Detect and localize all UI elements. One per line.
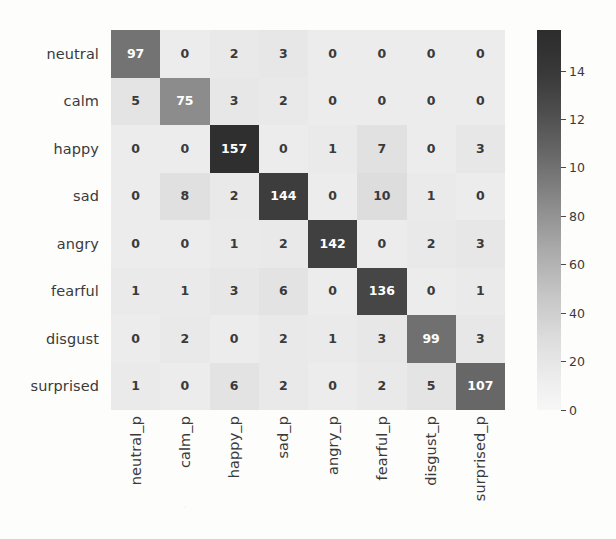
cell-value: 2 xyxy=(230,48,239,61)
y-axis-label-disgust: disgust xyxy=(8,315,106,363)
heatmap-cell: 75 xyxy=(160,78,209,126)
heatmap-cell: 2 xyxy=(210,30,259,78)
cell-value: 0 xyxy=(181,238,190,251)
x-axis-label-slot: surprised_p xyxy=(456,412,505,534)
cell-value: 0 xyxy=(328,190,337,203)
heatmap-cell: 144 xyxy=(259,173,308,221)
x-axis-label-slot: angry_p xyxy=(308,412,357,534)
colorbar-ticks: 020406080101214 xyxy=(561,30,616,410)
heatmap-cell: 2 xyxy=(407,220,456,268)
cell-value: 136 xyxy=(369,285,395,298)
cell-value: 75 xyxy=(176,95,193,108)
colorbar-tick-mark xyxy=(561,71,566,72)
cell-value: 0 xyxy=(476,48,485,61)
cell-value: 2 xyxy=(230,190,239,203)
colorbar-tick-label: 0 xyxy=(569,403,577,418)
x-axis-label-neutral_p: neutral_p xyxy=(128,416,144,485)
cell-value: 1 xyxy=(328,143,337,156)
cell-value: 1 xyxy=(230,238,239,251)
cell-value: 2 xyxy=(279,380,288,393)
cell-value: 157 xyxy=(221,143,247,156)
cell-value: 5 xyxy=(131,95,140,108)
heatmap-cell: 0 xyxy=(160,220,209,268)
heatmap-cell: 2 xyxy=(160,315,209,363)
colorbar-tick-mark xyxy=(561,361,566,362)
cell-value: 0 xyxy=(131,238,140,251)
heatmap-cell: 0 xyxy=(407,125,456,173)
cell-value: 0 xyxy=(181,380,190,393)
cell-value: 0 xyxy=(230,333,239,346)
heatmap-cell: 3 xyxy=(357,315,406,363)
cell-value: 2 xyxy=(279,333,288,346)
cell-value: 0 xyxy=(328,380,337,393)
cell-value: 1 xyxy=(427,190,436,203)
cell-value: 1 xyxy=(131,380,140,393)
cell-value: 2 xyxy=(427,238,436,251)
cell-value: 3 xyxy=(378,333,387,346)
colorbar-tick-mark xyxy=(561,264,566,265)
x-axis-label-angry_p: angry_p xyxy=(325,416,341,475)
cell-value: 0 xyxy=(328,285,337,298)
colorbar-tick-mark xyxy=(561,119,566,120)
heatmap-cell: 1 xyxy=(407,173,456,221)
x-axis-label-slot: calm_p xyxy=(160,412,209,534)
heatmap-cell: 0 xyxy=(308,173,357,221)
heatmap-cell: 0 xyxy=(111,220,160,268)
y-axis-label-fearful: fearful xyxy=(8,268,106,316)
heatmap-cell: 0 xyxy=(456,173,505,221)
cell-value: 0 xyxy=(131,143,140,156)
cell-value: 0 xyxy=(476,190,485,203)
heatmap-cell: 0 xyxy=(111,173,160,221)
heatmap-cell: 0 xyxy=(160,125,209,173)
x-axis-label-slot: neutral_p xyxy=(111,412,160,534)
cell-value: 99 xyxy=(422,333,439,346)
heatmap-cell: 107 xyxy=(456,363,505,411)
heatmap-cell: 157 xyxy=(210,125,259,173)
heatmap-cell: 0 xyxy=(111,315,160,363)
colorbar-tick-mark xyxy=(561,410,566,411)
x-axis-label-happy_p: happy_p xyxy=(226,416,242,478)
heatmap-cell: 1 xyxy=(308,315,357,363)
x-axis-label-slot: fearful_p xyxy=(357,412,406,534)
cell-value: 0 xyxy=(131,333,140,346)
y-axis-label-neutral: neutral xyxy=(8,30,106,78)
x-axis-label-slot: happy_p xyxy=(210,412,259,534)
cell-value: 1 xyxy=(476,285,485,298)
colorbar-tick-label: 12 xyxy=(569,112,585,127)
cell-value: 0 xyxy=(427,143,436,156)
cell-value: 2 xyxy=(378,380,387,393)
heatmap-cell: 142 xyxy=(308,220,357,268)
cell-value: 2 xyxy=(279,238,288,251)
colorbar-tick-label: 10 xyxy=(569,160,585,175)
cell-value: 0 xyxy=(328,48,337,61)
x-axis-label-calm_p: calm_p xyxy=(177,416,193,468)
cell-value: 107 xyxy=(467,380,493,393)
cell-value: 0 xyxy=(427,285,436,298)
heatmap-cell: 0 xyxy=(308,363,357,411)
cell-value: 144 xyxy=(270,190,296,203)
heatmap-cell: 2 xyxy=(210,173,259,221)
heatmap-cell: 2 xyxy=(259,363,308,411)
heatmap-cell: 3 xyxy=(259,30,308,78)
heatmap-cell: 1 xyxy=(456,268,505,316)
x-axis-label-sad_p: sad_p xyxy=(275,416,291,459)
colorbar-tick-label: 60 xyxy=(569,257,585,272)
cell-value: 0 xyxy=(279,143,288,156)
heatmap-cell: 2 xyxy=(259,220,308,268)
cell-value: 1 xyxy=(131,285,140,298)
cell-value: 0 xyxy=(378,48,387,61)
heatmap-cell: 1 xyxy=(111,268,160,316)
cell-value: 0 xyxy=(476,95,485,108)
cell-value: 0 xyxy=(427,95,436,108)
cell-value: 10 xyxy=(373,190,390,203)
y-axis-label-angry: angry xyxy=(8,220,106,268)
colorbar-tick-label: 40 xyxy=(569,306,585,321)
cell-value: 3 xyxy=(230,95,239,108)
cell-value: 0 xyxy=(427,48,436,61)
cell-value: 3 xyxy=(476,333,485,346)
heatmap-cell: 8 xyxy=(160,173,209,221)
heatmap-cell: 3 xyxy=(456,315,505,363)
y-axis-label-surprised: surprised xyxy=(8,363,106,411)
heatmap-cell: 0 xyxy=(456,30,505,78)
heatmap-cell: 0 xyxy=(407,78,456,126)
